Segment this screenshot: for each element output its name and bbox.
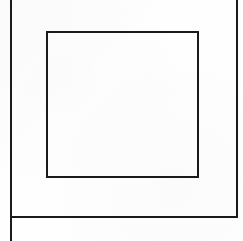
inner-rectangle (47, 32, 198, 177)
line-drawing-figure (0, 0, 243, 241)
drawing-canvas (0, 0, 243, 241)
